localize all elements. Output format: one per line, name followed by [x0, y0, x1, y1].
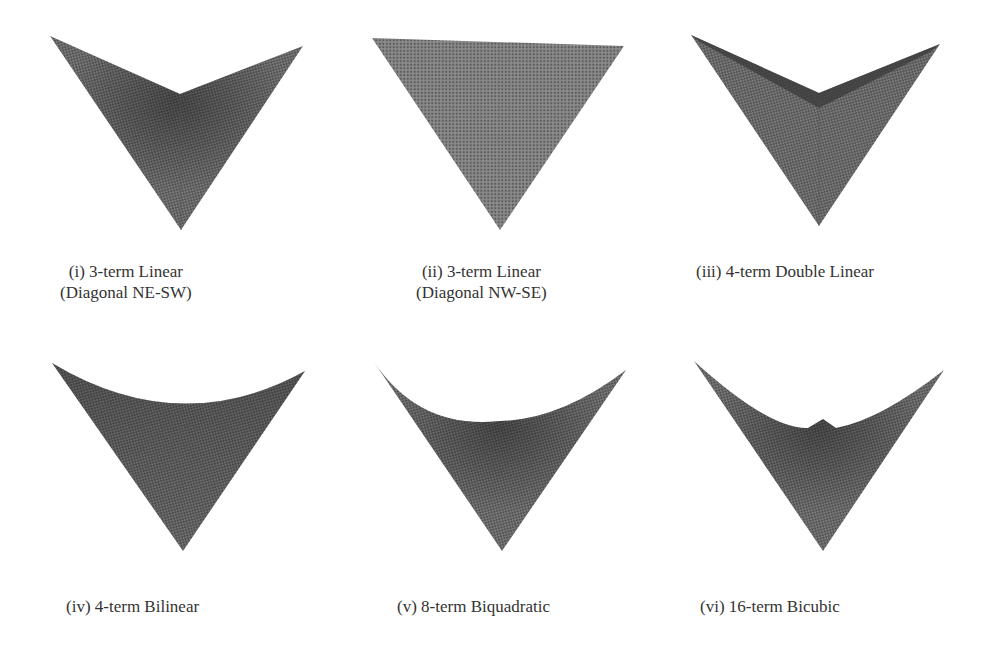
caption-line-1: (vi) 16-term Bicubic — [700, 596, 840, 617]
mesh-surface-vi — [0, 0, 996, 560]
figure-panel-vi: (vi) 16-term Bicubic — [0, 0, 996, 649]
caption-vi: (vi) 16-term Bicubic — [700, 596, 840, 617]
